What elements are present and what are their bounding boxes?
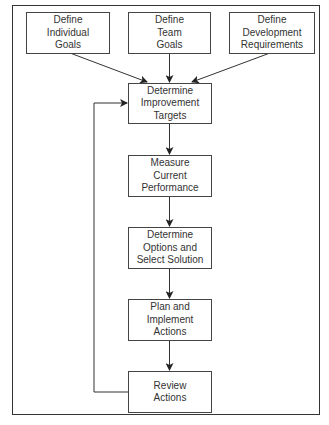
box-text-line: Current: [153, 170, 186, 183]
box-text-line: Development: [243, 27, 302, 40]
box-text-line: Determine: [147, 229, 193, 242]
box-text-line: Goals: [55, 39, 81, 52]
box-text-line: Performance: [141, 182, 198, 195]
box-determine-options-select-solution: Determine Options and Select Solution: [128, 227, 212, 269]
box-text-line: Plan and: [150, 301, 189, 314]
arrow-development-to-targets: [192, 53, 270, 82]
box-text-line: Goals: [156, 39, 182, 52]
box-define-team-goals: Define Team Goals: [128, 12, 211, 54]
box-text-line: Actions: [154, 326, 187, 339]
box-text-line: Targets: [154, 110, 187, 123]
box-text-line: Select Solution: [137, 254, 204, 267]
box-determine-improvement-targets: Determine Improvement Targets: [128, 83, 212, 124]
box-text-line: Options and: [143, 242, 197, 255]
connector-lines: [0, 0, 329, 425]
box-text-line: Determine: [147, 85, 193, 98]
box-review-actions: Review Actions: [128, 371, 212, 413]
box-text-line: Define: [54, 14, 83, 27]
box-text-line: Individual: [47, 27, 89, 40]
box-measure-current-performance: Measure Current Performance: [128, 155, 212, 197]
box-text-line: Actions: [154, 392, 187, 405]
arrow-individual-to-targets: [70, 53, 147, 82]
box-text-line: Define: [258, 14, 287, 27]
box-text-line: Requirements: [241, 39, 303, 52]
box-plan-implement-actions: Plan and Implement Actions: [128, 299, 212, 341]
box-define-individual-goals: Define Individual Goals: [26, 12, 110, 54]
box-text-line: Improvement: [141, 97, 199, 110]
box-text-line: Define: [155, 14, 184, 27]
feedback-loop-review-to-targets: [94, 103, 128, 392]
box-text-line: Team: [157, 27, 181, 40]
box-text-line: Review: [154, 380, 187, 393]
box-text-line: Implement: [147, 314, 194, 327]
box-define-development-requirements: Define Development Requirements: [229, 12, 315, 54]
box-text-line: Measure: [151, 157, 190, 170]
